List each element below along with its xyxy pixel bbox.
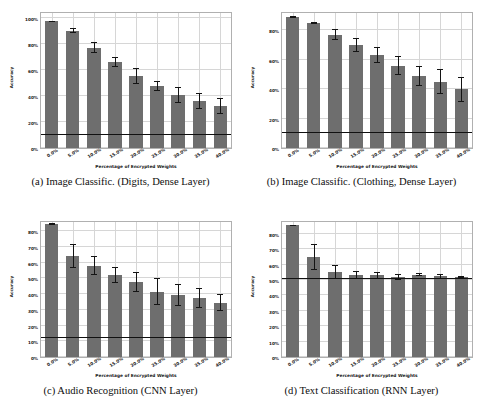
error-bar-line <box>377 47 378 63</box>
error-bar <box>133 68 139 84</box>
error-bar-line <box>419 66 420 87</box>
bar <box>286 225 300 357</box>
error-bar-line <box>440 69 441 94</box>
y-tick-label: 0% <box>272 147 279 152</box>
error-bar <box>175 87 181 103</box>
y-tick-label: 10% <box>28 340 38 345</box>
error-bar-cap-top <box>374 272 380 273</box>
error-bar-cap-top <box>196 93 202 94</box>
error-bar-cap-top <box>437 69 443 70</box>
error-bar <box>395 56 401 75</box>
error-bar-cap-top <box>416 66 422 67</box>
error-bar-cap-top <box>196 288 202 289</box>
error-bar-line <box>461 77 462 102</box>
error-bar <box>290 225 296 226</box>
error-bar-cap-top <box>437 274 443 275</box>
error-bar-cap-top <box>154 81 160 82</box>
x-axis-label: Percentage of Encrypted Weights <box>281 373 473 378</box>
panel-b: Accuracy0%20%40%60%80%0.0%5.0%10.0%15.0%… <box>241 0 482 209</box>
error-bar-cap-bottom <box>154 90 160 91</box>
error-bar <box>353 38 359 51</box>
error-bar-cap-top <box>70 244 76 245</box>
x-axis-ticks: 0.0%5.0%10.0%15.0%20.0%25.0%30.0%35.0%40… <box>281 360 473 372</box>
error-bar <box>112 57 118 67</box>
error-bar-cap-top <box>175 87 181 88</box>
error-bar-cap-bottom <box>133 291 139 292</box>
x-axis-ticks: 0.0%5.0%10.0%15.0%20.0%25.0%30.0%35.0%40… <box>40 360 232 372</box>
panel-caption-c: (c) Audio Recognition (CNN Layer) <box>0 385 241 396</box>
y-tick-label: 10% <box>269 340 279 345</box>
x-axis-label: Percentage of Encrypted Weights <box>40 373 232 378</box>
error-bar-cap-bottom <box>217 310 223 311</box>
bar <box>108 62 122 148</box>
y-axis-ticks: 0%20%40%60%80% <box>255 6 281 149</box>
error-bar-cap-bottom <box>175 102 181 103</box>
error-bar-cap-bottom <box>416 85 422 86</box>
error-bar-line <box>178 284 179 306</box>
error-bar <box>290 16 296 18</box>
bar <box>286 17 300 148</box>
y-tick-label: 50% <box>28 277 38 282</box>
y-tick-label: 40% <box>28 94 38 99</box>
panel-caption-d: (d) Text Classification (RNN Layer) <box>241 385 482 396</box>
plot-area-b: Accuracy0%20%40%60%80%0.0%5.0%10.0%15.0%… <box>241 6 482 166</box>
error-bar <box>49 21 55 22</box>
x-tick-label: 5.0% <box>308 148 321 159</box>
bar <box>412 275 426 357</box>
error-bar-cap-top <box>458 77 464 78</box>
y-tick-label: 30% <box>269 309 279 314</box>
error-bar-line <box>73 244 74 268</box>
bar <box>391 66 405 148</box>
error-bar <box>70 28 76 33</box>
error-bar-cap-bottom <box>395 74 401 75</box>
error-bar-cap-bottom <box>437 93 443 94</box>
error-bar-cap-top <box>133 272 139 273</box>
axes-d <box>281 221 473 358</box>
error-bar-line <box>356 38 357 51</box>
error-bar-cap-bottom <box>70 32 76 33</box>
error-bar-cap-bottom <box>112 282 118 283</box>
error-bar <box>154 278 160 305</box>
y-tick-label: 20% <box>269 325 279 330</box>
y-tick-label: 80% <box>269 29 279 34</box>
bar <box>328 35 342 148</box>
y-tick-label: 40% <box>269 294 279 299</box>
bar <box>45 21 59 148</box>
error-bar-cap-bottom <box>91 274 97 275</box>
error-bar-cap-bottom <box>332 39 338 40</box>
error-bar-cap-bottom <box>458 101 464 102</box>
bar <box>150 86 164 148</box>
plot-area-a: Accuracy0%20%40%60%80%100%0.0%5.0%10.0%1… <box>0 6 241 166</box>
bar <box>307 23 321 148</box>
error-bar-cap-bottom <box>91 52 97 53</box>
error-bar-cap-top <box>395 274 401 275</box>
panel-a: Accuracy0%20%40%60%80%100%0.0%5.0%10.0%1… <box>0 0 241 209</box>
bar <box>66 31 80 148</box>
x-axis-label: Percentage of Encrypted Weights <box>281 164 473 169</box>
y-tick-label: 60% <box>269 58 279 63</box>
bar <box>66 256 80 357</box>
panel-caption-b: (b) Image Classific. (Clothing, Dense La… <box>241 176 482 187</box>
bar <box>328 272 342 357</box>
error-bar-cap-top <box>175 284 181 285</box>
error-bar-cap-bottom <box>353 51 359 52</box>
error-bar <box>311 22 317 24</box>
y-tick-label: 40% <box>269 88 279 93</box>
y-axis-ticks: 0%10%20%30%40%50%60%70%80% <box>255 215 281 358</box>
y-tick-label: 70% <box>28 245 38 250</box>
x-tick-label: 0.0% <box>46 148 59 159</box>
error-bar-cap-top <box>112 267 118 268</box>
error-bar <box>91 42 97 52</box>
bar <box>307 257 321 357</box>
y-tick-label: 80% <box>28 42 38 47</box>
error-bar-cap-top <box>332 29 338 30</box>
error-bar <box>175 284 181 306</box>
error-bar-line <box>136 272 137 292</box>
error-bar-cap-bottom <box>416 275 422 276</box>
figure-grid: Accuracy0%20%40%60%80%100%0.0%5.0%10.0%1… <box>0 0 482 418</box>
axes-a <box>40 12 232 149</box>
error-bar-cap-bottom <box>49 224 55 225</box>
error-bar-line <box>220 294 221 311</box>
y-tick-label: 60% <box>28 68 38 73</box>
y-axis-ticks: 0%20%40%60%80%100% <box>14 6 40 149</box>
